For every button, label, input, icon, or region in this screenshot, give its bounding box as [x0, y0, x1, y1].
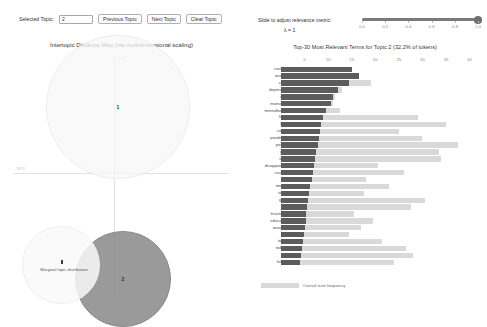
bar-topic-frequency: [281, 260, 300, 265]
relevance-slider-ticks: 0.00.20.40.60.81.0: [362, 24, 486, 34]
bar-overall-frequency: [281, 129, 399, 134]
slider-tickmark: [385, 21, 386, 23]
slider-tickmark: [455, 21, 456, 23]
bar-chart-row[interactable]: covid: [243, 80, 487, 87]
bar-overall-frequency: [281, 73, 359, 78]
bar-overall-frequency: [281, 191, 364, 196]
bar-overall-frequency: [281, 122, 446, 127]
bar-topic-frequency: [281, 142, 318, 147]
topic-bubble-1-label: 1: [117, 104, 120, 110]
slider-tick-label: 0.6: [429, 24, 435, 29]
bar-overall-frequency: [281, 80, 371, 85]
bar-chart-row[interactable]: good: [243, 197, 487, 204]
x-axis-tick-label: 40: [467, 57, 472, 62]
bar-chart-row[interactable]: like: [243, 252, 487, 259]
bar-topic-frequency: [281, 253, 301, 258]
bar-chart-row[interactable]: mental: [243, 183, 487, 190]
bar-overall-frequency: [281, 67, 352, 72]
relevance-slider-label: Slide to adjust relevance metric:: [258, 17, 332, 23]
previous-topic-button[interactable]: Previous Topic: [98, 14, 142, 24]
bar-chart-title: Top-30 Most Relevant Terms for Topic 2 (…: [243, 44, 487, 50]
x-axis-tick-label: 35: [444, 57, 449, 62]
bar-chart-rows: covid19anxietacoviddepressedohiomotivate…: [243, 66, 487, 266]
x-axis-tick-label: 10: [326, 57, 331, 62]
bar-topic-frequency: [281, 198, 308, 203]
bar-chart-row[interactable]: health: [243, 259, 487, 266]
bar-chart-row[interactable]: life: [243, 204, 487, 211]
bar-topic-frequency: [281, 239, 303, 244]
bar-overall-frequency: [281, 108, 340, 113]
bar-overall-frequency: [281, 163, 378, 168]
bar-topic-frequency: [281, 218, 306, 223]
next-topic-button[interactable]: Next Topic: [147, 14, 181, 24]
slider-tick-label: 1.0: [475, 24, 481, 29]
relevance-slider-track[interactable]: [362, 18, 478, 21]
bar-overall-frequency: [281, 232, 349, 237]
bar-chart-row[interactable]: hope: [243, 114, 487, 121]
bar-chart-row[interactable]: today2: [243, 245, 487, 252]
bar-overall-frequency: [281, 204, 411, 209]
bar-overall-frequency: [281, 149, 439, 154]
bar-chart-row[interactable]: disappointed: [243, 162, 487, 169]
bar-chart-row[interactable]: pandemic: [243, 135, 487, 142]
bar-overall-frequency: [281, 101, 333, 106]
bar-chart-row[interactable]: time: [243, 121, 487, 128]
marginal-topic-distribution-legend: Marginal topic distribution: [14, 226, 114, 288]
topic-controls-toolbar: Selected Topic: Previous Topic Next Topi…: [19, 14, 222, 24]
bar-topic-frequency: [281, 163, 314, 168]
bar-chart-row[interactable]: ohio: [243, 94, 487, 101]
intertopic-distance-panel: Selected Topic: Previous Topic Next Topi…: [0, 0, 243, 305]
bar-chart-legend: Overall term frequency: [253, 282, 483, 292]
bar-overall-frequency: [281, 136, 422, 141]
bar-topic-frequency: [281, 108, 326, 113]
x-axis-tick-label: 15: [349, 57, 354, 62]
clear-topic-button[interactable]: Clear Topic: [186, 14, 222, 24]
x-axis-tick-label: 25: [396, 57, 401, 62]
bar-chart-row[interactable]: due: [243, 231, 487, 238]
bar-chart-row[interactable]: anxiexta: [243, 224, 487, 231]
bar-topic-frequency: [281, 115, 323, 120]
bar-topic-frequency: [281, 246, 302, 251]
bar-topic-frequency: [281, 101, 331, 106]
bar-overall-frequency: [281, 177, 366, 182]
bar-chart-row[interactable]: year: [243, 149, 487, 156]
bar-chart-row[interactable]: work: [243, 156, 487, 163]
bar-overall-frequency: [281, 246, 406, 251]
bar-chart-row[interactable]: depressed: [243, 87, 487, 94]
bar-overall-frequency: [281, 218, 373, 223]
bar-overall-frequency: [281, 142, 458, 147]
bar-topic-frequency: [281, 122, 321, 127]
bar-topic-frequency: [281, 136, 319, 141]
topic-bubble-2-label: 2: [122, 276, 125, 282]
relevance-slider-area[interactable]: Slide to adjust relevance metric: λ = 1 …: [258, 13, 483, 39]
lambda-value-label: λ = 1: [284, 27, 295, 33]
bar-chart-row[interactable]: today: [243, 238, 487, 245]
bar-chart-row[interactable]: covid19: [243, 66, 487, 73]
bar-chart-row[interactable]: frustrated: [243, 211, 487, 218]
slider-tickmark: [362, 21, 363, 23]
bar-overall-frequency: [281, 260, 394, 265]
bar-chart-row[interactable]: tanks: [243, 190, 487, 197]
slider-tick-label: 0.2: [382, 24, 388, 29]
bar-chart-row[interactable]: education: [243, 218, 487, 225]
slider-tickmark: [432, 21, 433, 23]
slider-tickmark: [478, 21, 479, 23]
bar-topic-frequency: [281, 149, 316, 154]
bar-overall-frequency: [281, 239, 382, 244]
bar-chart-row[interactable]: girl: [243, 176, 487, 183]
x-axis-tick-label: 20: [373, 57, 378, 62]
bar-chart-row[interactable]: motivated: [243, 100, 487, 107]
slider-tick-label: 0.4: [405, 24, 411, 29]
bar-chart-row[interactable]: country: [243, 169, 487, 176]
bar-topic-frequency: [281, 204, 307, 209]
bar-overall-frequency: [281, 94, 335, 99]
bar-chart-row[interactable]: stress: [243, 128, 487, 135]
bar-chart-row[interactable]: anxieta: [243, 73, 487, 80]
x-axis-tick-label: 5: [303, 57, 305, 62]
bar-chart-row[interactable]: people: [243, 142, 487, 149]
selected-topic-input[interactable]: [59, 15, 93, 24]
legend-label-overall: Overall term frequency: [303, 283, 345, 288]
bar-overall-frequency: [281, 87, 342, 92]
marginal-distribution-label: Marginal topic distribution: [14, 267, 114, 272]
bar-chart-row[interactable]: mentalhealth: [243, 107, 487, 114]
